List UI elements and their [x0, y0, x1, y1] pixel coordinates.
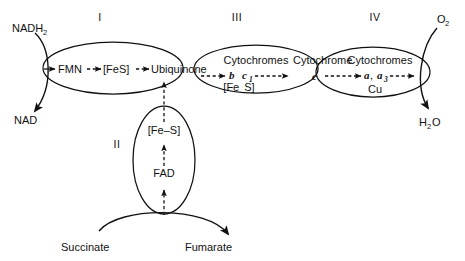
fumarate-label: Fumarate: [185, 241, 232, 253]
complex-ii-fes-label: [Fe–S]: [148, 124, 180, 136]
complex-ii-group: II Succinate Fumarate FAD [Fe–S]: [61, 82, 232, 253]
cytochrome-b-label: b: [229, 69, 235, 81]
fad-label: FAD: [153, 167, 174, 179]
complex-ii-numeral: II: [114, 138, 121, 150]
nadh-subscript: 2: [43, 28, 47, 37]
water-subscript: 2: [427, 122, 431, 131]
complex-iii-cytochromes-label: Cytochromes: [224, 54, 289, 66]
complex-iii-numeral: III: [232, 11, 242, 23]
succinate-to-fumarate-curve: [99, 213, 228, 234]
electron-transport-chain-diagram: I NADH 2 NAD FMN [FeS] Ubiquinone II Suc…: [0, 0, 465, 261]
cytochrome-a-comma: ,: [370, 69, 373, 81]
oxygen-subscript: 2: [445, 19, 449, 28]
fmn-label: FMN: [58, 63, 82, 75]
nad-label: NAD: [14, 114, 37, 126]
cytochrome-c1-label: c: [242, 69, 247, 81]
cytochrome-a3-subscript: 3: [383, 75, 388, 84]
nadh-label: NADH: [12, 22, 43, 34]
complex-i-numeral: I: [98, 11, 101, 23]
complex-iv-group: IV Cytochromes a , a 3 Cu O 2 H 2 O: [316, 11, 449, 131]
diagram-canvas: I NADH 2 NAD FMN [FeS] Ubiquinone II Suc…: [0, 0, 465, 261]
copper-label: Cu: [368, 83, 382, 95]
complex-iv-numeral: IV: [370, 11, 381, 23]
complex-iii-fes-label: [FeS]: [223, 81, 254, 93]
complex-iv-cytochromes-label: Cytochromes: [348, 54, 413, 66]
ubiquinone-label: Ubiquinone: [151, 63, 207, 75]
water-h-label: H: [419, 116, 427, 128]
complex-iii-ellipse: [194, 45, 318, 93]
water-o-label: O: [432, 116, 441, 128]
nadh-to-nad-curve: [35, 33, 48, 111]
succinate-label: Succinate: [61, 241, 109, 253]
complex-iii-group: III Cytochromes b c 1 [FeS]: [194, 11, 318, 93]
cytochrome-c-carrier-group: Cytochrome c: [293, 54, 352, 82]
cytochrome-a3-label: a: [377, 69, 383, 81]
complex-i-fes-label: [FeS]: [103, 63, 129, 75]
complex-i-group: I NADH 2 NAD FMN [FeS] Ubiquinone: [12, 11, 207, 126]
